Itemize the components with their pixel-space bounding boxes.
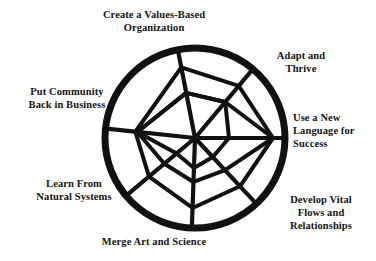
spiderweb-diagram: Create a Values-Based Organization Adapt… [0,0,376,261]
label-learn-from-natural-systems: Learn From Natural Systems [22,178,126,204]
label-create-values-based-organization: Create a Values-Based Organization [84,9,224,35]
label-merge-art-and-science: Merge Art and Science [88,236,220,249]
label-adapt-and-thrive: Adapt and Thrive [253,50,349,76]
spoke-community [106,129,195,138]
label-use-a-new-language-for-success: Use a New Language for Success [293,112,375,150]
ring-inner [137,93,229,168]
label-develop-vital-flows-and-relationships: Develop Vital Flows and Relationships [268,194,374,232]
label-put-community-back-in-business: Put Community Back in Business [12,86,122,112]
